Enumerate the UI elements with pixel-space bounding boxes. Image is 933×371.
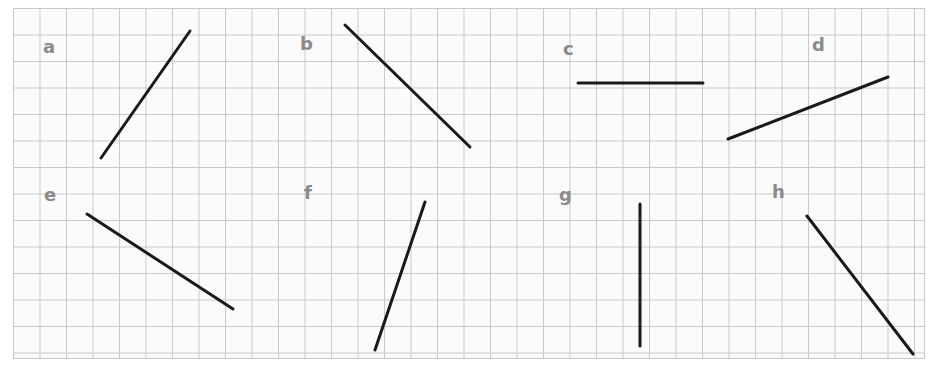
segment-label-d: d [812,36,825,54]
segment-label-h: h [772,183,785,201]
segment-label-a: a [43,38,55,56]
line-segment-a [101,31,190,158]
line-segment-b [345,25,470,147]
segment-label-b: b [300,35,313,53]
worksheet-page: abcdefgh [0,0,933,371]
segment-label-f: f [304,184,312,202]
line-segment-d [728,77,888,139]
line-segment-f [375,202,425,350]
line-segment-h [807,216,913,354]
segment-label-c: c [563,40,574,58]
line-segment-e [87,214,233,309]
line-segments-layer [0,0,933,371]
segment-label-g: g [559,186,572,204]
segment-label-e: e [44,186,56,204]
